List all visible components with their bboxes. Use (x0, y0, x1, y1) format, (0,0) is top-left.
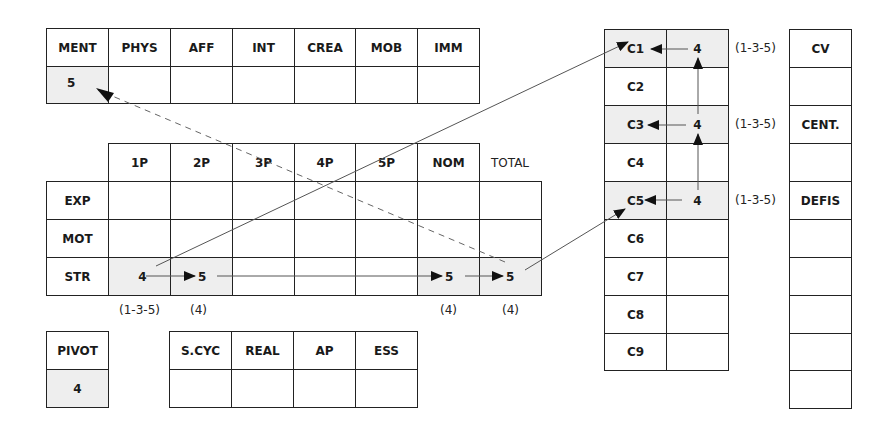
top-value-ment: 5 (46, 66, 109, 104)
top-header-ment: MENT (46, 28, 109, 67)
cv-cell-7 (789, 257, 852, 296)
cell-str-5p (355, 257, 418, 296)
footnote-total: (4) (479, 300, 542, 320)
cell-exp-nom (417, 181, 480, 220)
cycle-header-ap: AP (293, 331, 356, 370)
main-header-4p: 4P (294, 143, 356, 182)
c-label-c7: C7 (604, 257, 667, 296)
c-value-c4 (666, 143, 729, 182)
cell-str-total: 5 (479, 257, 542, 296)
c-label-c3: C3 (604, 105, 667, 144)
cell-exp-4p (294, 181, 356, 220)
row-label-mot: MOT (46, 219, 109, 258)
cell-str-2p: 5 (170, 257, 233, 296)
main-header-1p: 1P (108, 143, 171, 182)
c-value-c8 (666, 295, 729, 334)
c-note-c3: (1-3-5) (735, 117, 776, 131)
c-value-c9 (666, 333, 729, 371)
c-label-c4: C4 (604, 143, 667, 182)
footnote-2p: (4) (170, 300, 253, 320)
c-value-c3: 4 (666, 105, 729, 144)
cell-exp-3p (232, 181, 295, 220)
cell-mot-4p (294, 219, 356, 258)
cv-cell-cent: CENT. (789, 105, 852, 144)
pivot-label: PIVOT (46, 331, 109, 370)
main-header-total: TOTAL (479, 143, 541, 182)
cv-cell-10 (789, 370, 852, 409)
c-label-c9: C9 (604, 333, 667, 371)
cell-exp-total (479, 181, 542, 220)
footnote-1p: (1-3-5) (108, 300, 171, 320)
row-label-exp: EXP (46, 181, 109, 220)
top-value-phys (108, 66, 171, 104)
cell-exp-2p (170, 181, 233, 220)
cell-exp-5p (355, 181, 418, 220)
cycle-header-ess: ESS (355, 331, 418, 370)
cell-mot-2p (170, 219, 233, 258)
c-value-c6 (666, 219, 729, 258)
top-header-int: INT (232, 28, 295, 67)
cycle-header-scyc: S.CYC (169, 331, 232, 370)
cv-cell-8 (789, 295, 852, 334)
cycle-header-real: REAL (231, 331, 294, 370)
top-header-imm: IMM (417, 28, 480, 67)
c-label-c6: C6 (604, 219, 667, 258)
cell-str-nom: 5 (417, 257, 480, 296)
cell-str-4p (294, 257, 356, 296)
top-value-int (232, 66, 295, 104)
top-value-crea (294, 66, 356, 104)
cv-cell-6 (789, 219, 852, 258)
cycle-value-ap (293, 369, 356, 408)
c-label-c2: C2 (604, 67, 667, 106)
c-value-c5: 4 (666, 181, 729, 220)
top-header-mob: MOB (355, 28, 418, 67)
cycle-value-ess (355, 369, 418, 408)
c-label-c5: C5 (604, 181, 667, 220)
cv-cell-4 (789, 143, 852, 182)
top-header-phys: PHYS (108, 28, 171, 67)
row-label-str: STR (46, 257, 109, 296)
cell-mot-5p (355, 219, 418, 258)
top-header-crea: CREA (294, 28, 356, 67)
cell-exp-1p (108, 181, 171, 220)
top-header-aff: AFF (170, 28, 233, 67)
c-value-c1: 4 (666, 29, 729, 68)
cell-str-3p (232, 257, 295, 296)
c-value-c7 (666, 257, 729, 296)
cell-mot-nom (417, 219, 480, 258)
footnote-nom: (4) (417, 300, 480, 320)
main-header-3p: 3P (232, 143, 295, 182)
top-value-aff (170, 66, 233, 104)
c-note-c1: (1-3-5) (735, 41, 776, 55)
cell-mot-1p (108, 219, 171, 258)
top-value-mob (355, 66, 418, 104)
cell-mot-3p (232, 219, 295, 258)
main-header-5p: 5P (355, 143, 418, 182)
c-label-c1: C1 (604, 29, 667, 68)
cycle-value-real (231, 369, 294, 408)
cv-cell-cv: CV (789, 29, 852, 68)
cv-cell-defis: DEFIS (789, 181, 852, 220)
cv-cell-2 (789, 67, 852, 106)
pivot-value: 4 (46, 369, 109, 408)
main-header-2p: 2P (170, 143, 233, 182)
main-header-nom: NOM (417, 143, 480, 182)
cell-mot-total (479, 219, 542, 258)
top-value-imm (417, 66, 480, 104)
c-value-c2 (666, 67, 729, 106)
c-label-c8: C8 (604, 295, 667, 334)
cv-cell-9 (789, 333, 852, 371)
c-note-c5: (1-3-5) (735, 193, 776, 207)
cell-str-1p: 4 (108, 257, 171, 296)
cycle-value-scyc (169, 369, 232, 408)
